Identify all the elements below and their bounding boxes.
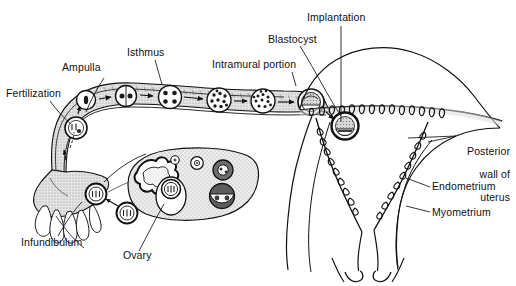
label-posterior-wall-of-uterus: Posterior wall of uterus [420, 134, 510, 215]
label-posterior-wall-line-1: Posterior [467, 145, 510, 157]
label-isthmus: Isthmus [127, 47, 164, 59]
anatomy-figure: Fertilization Ampulla Isthmus Intramural… [0, 0, 516, 286]
label-infundibulum: Infundibulum [21, 237, 82, 249]
label-fertilization: Fertilization [6, 88, 61, 100]
implanting-blastocyst [332, 113, 359, 140]
label-endometrium: Endometrium [432, 181, 496, 193]
label-myometrium: Myometrium [432, 207, 491, 219]
label-blastocyst: Blastocyst [268, 34, 317, 46]
label-posterior-wall-line-2: wall of [480, 168, 510, 180]
label-ovary: Ovary [123, 250, 152, 262]
label-implantation: Implantation [307, 12, 365, 24]
cervical-canal [332, 230, 404, 282]
label-intramural-portion: Intramural portion [212, 59, 296, 71]
label-ampulla: Ampulla [62, 62, 101, 74]
